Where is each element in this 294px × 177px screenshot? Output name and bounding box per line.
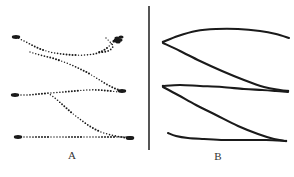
track-dot [54, 98, 56, 100]
track-dot [101, 51, 103, 53]
track-dot [94, 128, 96, 130]
track-dot [110, 49, 112, 51]
track-dot [58, 59, 60, 61]
track-dot [50, 92, 51, 93]
endpoint-blob-marker [118, 35, 123, 38]
track-dot [35, 136, 37, 138]
track-dot [83, 90, 84, 91]
track-dot [83, 70, 85, 72]
track-dot [57, 53, 59, 55]
track-dot [26, 94, 28, 96]
track-dot [44, 92, 46, 94]
track-dot [41, 55, 43, 57]
track-dot [29, 51, 30, 52]
track-dot [59, 101, 61, 103]
track-dot [73, 113, 74, 114]
track-dot [104, 51, 106, 53]
track-dot [26, 42, 28, 44]
track-dot [101, 81, 103, 83]
track-dot [86, 136, 87, 137]
track-dot [98, 51, 100, 53]
track-dot [101, 89, 103, 91]
track-dot [98, 79, 100, 81]
endpoint-blob-marker [126, 136, 134, 140]
track-dot [84, 54, 85, 55]
track-dot [92, 136, 94, 138]
track-dot [89, 136, 90, 137]
track-dot [106, 84, 108, 86]
track-dot [71, 90, 73, 92]
track-dot [95, 136, 97, 138]
track-dot [59, 91, 61, 93]
track-dot [41, 93, 43, 95]
track-dot [114, 88, 116, 90]
track-dot [116, 136, 117, 137]
track-dot [107, 90, 109, 92]
track-dot [107, 50, 109, 52]
track-dot [110, 136, 112, 138]
track-dot [68, 109, 70, 111]
track-dot [23, 40, 25, 42]
track-dot [80, 68, 82, 70]
track-dot [80, 90, 81, 91]
track-dot [52, 57, 54, 59]
track-dot [101, 136, 103, 138]
track-dot [91, 74, 92, 75]
track-dot [96, 77, 97, 78]
track-dot [32, 52, 33, 53]
track-dot [35, 93, 37, 95]
track-dot [50, 136, 51, 137]
track-dot [104, 89, 106, 91]
track-dot [87, 124, 89, 126]
track-dot [92, 89, 94, 91]
track-dot [71, 136, 73, 138]
track-dot [103, 132, 104, 133]
curve-vertex [162, 85, 165, 88]
track-dot [67, 63, 68, 64]
track-dot [104, 82, 106, 84]
track-dot [35, 53, 36, 54]
track-dot [34, 46, 36, 48]
track-dot [59, 136, 61, 138]
track-dot [98, 136, 100, 138]
curve-vertex [285, 140, 288, 143]
track-dot [70, 111, 72, 113]
track-dot [90, 54, 92, 56]
track-dot [54, 52, 56, 54]
track-dot [68, 91, 70, 93]
track-dot [109, 42, 110, 43]
track-dot [85, 71, 87, 73]
track-dot [96, 53, 98, 55]
track-dot [119, 136, 120, 137]
track-dot [74, 54, 76, 56]
track-dot [109, 45, 110, 46]
track-dot [62, 136, 64, 138]
track-dot [112, 44, 114, 46]
endpoint-blob-marker [11, 93, 19, 97]
track-dot [56, 136, 57, 137]
track-dot [122, 136, 123, 137]
endpoint-blob-marker [115, 40, 120, 43]
track-dot [52, 96, 53, 97]
track-dot [106, 133, 107, 134]
track-dot [83, 136, 84, 137]
figure-canvas [0, 0, 294, 177]
track-dot [98, 89, 100, 91]
track-dot [29, 136, 31, 138]
track-dot [56, 92, 58, 94]
track-dot [47, 136, 49, 138]
track-dot [107, 136, 109, 138]
track-dot [84, 122, 86, 124]
track-dot [74, 136, 76, 138]
track-dot [105, 37, 106, 38]
track-dot [106, 47, 108, 49]
track-dot [42, 49, 44, 51]
track-dot [87, 54, 89, 56]
panel-label-a: A [62, 149, 82, 161]
track-dot [44, 55, 46, 57]
track-dot [86, 89, 87, 90]
track-dot [93, 76, 94, 77]
panel-label-b: B [208, 150, 228, 162]
track-dot [65, 91, 67, 93]
curve-vertex [162, 41, 165, 44]
